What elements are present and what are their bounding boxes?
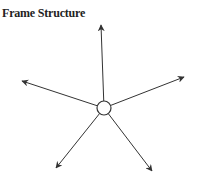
frame-structure-diagram — [0, 0, 197, 182]
arrow-up — [101, 25, 104, 101]
arrows-group — [22, 25, 184, 171]
arrow-lower-right — [108, 114, 152, 171]
center-node — [97, 101, 111, 115]
arrow-lower-left — [56, 113, 100, 168]
arrow-upper-right — [111, 77, 184, 105]
arrow-upper-left — [22, 81, 97, 106]
